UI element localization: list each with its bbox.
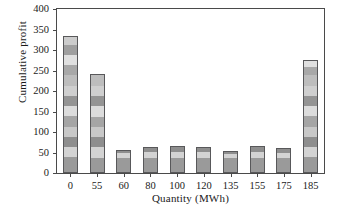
bar-segment <box>304 127 317 137</box>
bar[interactable] <box>170 146 185 173</box>
x-tick-mark <box>311 173 312 177</box>
bar-segment <box>64 86 77 96</box>
y-tick-mark <box>53 91 57 92</box>
y-axis-title: Cumulative profit <box>16 0 28 132</box>
y-tick-mark <box>53 9 57 10</box>
bar-segment <box>197 158 210 172</box>
bar-segment <box>64 36 77 44</box>
bar-segment <box>91 74 104 86</box>
y-tick-mark <box>53 50 57 51</box>
bar-segment <box>91 158 104 172</box>
y-tick-label: 400 <box>33 2 49 15</box>
y-tick-mark <box>53 132 57 133</box>
x-tick-mark <box>204 173 205 177</box>
bar-segment <box>144 158 157 172</box>
bar[interactable] <box>303 60 318 173</box>
x-axis-title: Quantity (MWh) <box>56 192 325 204</box>
bar-segment <box>304 106 317 116</box>
x-tick-mark <box>284 173 285 177</box>
y-tick-label: 200 <box>33 84 49 97</box>
chart-figure: Cumulative profit 0501001502002503003504… <box>0 0 340 217</box>
bar-segment <box>64 137 77 147</box>
bar-segment <box>91 137 104 147</box>
bar-segment <box>117 158 130 172</box>
bar-segment <box>171 158 184 172</box>
bar-segment <box>64 45 77 55</box>
bar[interactable] <box>196 147 211 173</box>
x-tick-mark <box>177 173 178 177</box>
bar[interactable] <box>143 147 158 173</box>
x-tick-mark <box>150 173 151 177</box>
bar-segment <box>91 96 104 106</box>
bar[interactable] <box>250 146 265 173</box>
bar-segment <box>64 75 77 85</box>
x-tick-mark <box>70 173 71 177</box>
y-tick-label: 100 <box>33 125 49 138</box>
x-tick-label: 185 <box>289 179 333 192</box>
bar-segment <box>304 137 317 147</box>
bar-segment <box>304 116 317 126</box>
bar-segment <box>91 147 104 157</box>
bar-segment <box>304 60 317 67</box>
bar-segment <box>64 55 77 65</box>
bar-segment <box>64 127 77 137</box>
y-tick-mark <box>53 30 57 31</box>
y-tick-label: 250 <box>33 64 49 77</box>
y-tick-label: 350 <box>33 23 49 36</box>
y-tick-label: 0 <box>44 166 49 179</box>
bar[interactable] <box>116 150 131 173</box>
y-tick-mark <box>53 71 57 72</box>
plot-area: 050100150200250300350400 055608010012013… <box>56 8 325 174</box>
bar-segment <box>251 158 264 172</box>
bar-segment <box>91 127 104 137</box>
bar-segment <box>64 106 77 116</box>
y-tick-mark <box>53 173 57 174</box>
bar-segment <box>277 158 290 172</box>
bar-segment <box>304 86 317 96</box>
y-tick-mark <box>53 112 57 113</box>
bar-segment <box>304 147 317 157</box>
x-tick-mark <box>257 173 258 177</box>
y-tick-mark <box>53 153 57 154</box>
bar[interactable] <box>63 36 78 173</box>
bar-segment <box>224 158 237 172</box>
bar-segment <box>91 117 104 127</box>
bar-segment <box>64 116 77 126</box>
bar-segment <box>64 147 77 157</box>
bar-segment <box>64 96 77 106</box>
bar[interactable] <box>223 151 238 173</box>
bar-segment <box>304 67 317 75</box>
y-tick-label: 150 <box>33 105 49 118</box>
x-tick-mark <box>231 173 232 177</box>
y-tick-label: 50 <box>39 146 50 159</box>
bar[interactable] <box>90 74 105 173</box>
y-tick-label: 300 <box>33 43 49 56</box>
bar-segment <box>91 86 104 96</box>
bar-segment <box>64 157 77 172</box>
x-tick-mark <box>97 173 98 177</box>
bar-segment <box>304 157 317 172</box>
bar-segment <box>304 75 317 85</box>
bar-segment <box>91 106 104 116</box>
bar[interactable] <box>276 148 291 173</box>
bar-segment <box>304 96 317 106</box>
bar-segment <box>64 65 77 75</box>
x-tick-mark <box>124 173 125 177</box>
